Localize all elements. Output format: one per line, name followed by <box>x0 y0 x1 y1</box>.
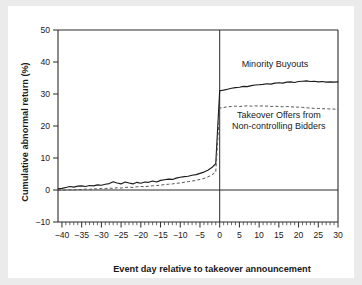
y-tick-label: 20 <box>40 121 50 131</box>
x-tick-label: −10 <box>173 230 188 240</box>
x-tick-label: −35 <box>74 230 89 240</box>
x-tick-labels: −40−35−30−25−20−15−10−5051015202530 <box>55 230 343 240</box>
y-tick-label: 30 <box>40 89 50 99</box>
y-tick-label: 50 <box>40 25 50 35</box>
x-tick-label: 30 <box>333 230 343 240</box>
x-tick-label: −30 <box>94 230 109 240</box>
x-axis-title: Event day relative to takeover announcem… <box>113 264 311 274</box>
y-tick-label: 10 <box>40 153 50 163</box>
y-tick-label: 40 <box>40 57 50 67</box>
x-tick-label: −25 <box>114 230 129 240</box>
x-tick-label: 20 <box>294 230 304 240</box>
takeover-offers-label-line1: Takeover Offers from <box>237 110 321 120</box>
takeover-offers-label-line2: Non-controlling Bidders <box>232 121 326 131</box>
y-tick-label: −10 <box>35 217 50 227</box>
x-tick-label: −5 <box>195 230 205 240</box>
y-tick-label: 0 <box>45 185 50 195</box>
minority-buyouts-label: Minority Buyouts <box>242 59 309 69</box>
cumulative-abnormal-return-chart: −40−35−30−25−20−15−10−5051015202530 −100… <box>8 6 354 278</box>
x-tick-label: −40 <box>55 230 70 240</box>
x-tick-label: 10 <box>254 230 264 240</box>
x-tick-label: −20 <box>134 230 149 240</box>
x-tick-label: 0 <box>217 230 222 240</box>
x-tick-label: 15 <box>274 230 284 240</box>
chart-canvas: −40−35−30−25−20−15−10−5051015202530 −100… <box>8 6 354 278</box>
x-tick-label: 5 <box>237 230 242 240</box>
x-tick-label: −15 <box>153 230 168 240</box>
y-axis-title: Cumulative abnormal return (%) <box>20 62 30 201</box>
figure-card: −40−35−30−25−20−15−10−5051015202530 −100… <box>8 6 354 278</box>
x-tick-label: 25 <box>314 230 324 240</box>
